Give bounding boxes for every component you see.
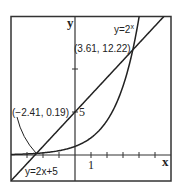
leader-line: [17, 117, 36, 153]
x-axis-label: x: [162, 154, 169, 169]
chart: y x 1 5 y=2x (3.61, 12.22) (−2.41, 0.19)…: [0, 0, 184, 189]
upper-intersection-label: (3.61, 12.22): [74, 43, 131, 54]
y-axis-label: y: [67, 15, 74, 30]
lower-intersection-label: (−2.41, 0.19): [12, 107, 69, 118]
curve-y-2-pow-x: [11, 0, 171, 154]
line-label: y=2x+5: [25, 166, 58, 177]
x-tick-label-1: 1: [88, 158, 94, 172]
exp-curve-label: y=2x: [114, 23, 134, 35]
y-tick-label-5: 5: [79, 105, 85, 119]
